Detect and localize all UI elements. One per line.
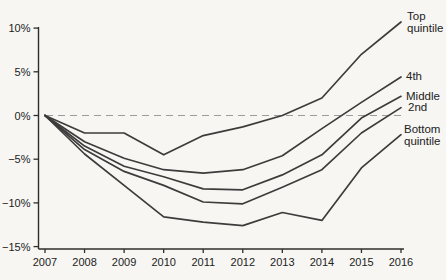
x-tick-label: 2008 — [72, 256, 96, 268]
series-label-2nd: 2nd — [408, 101, 427, 113]
series-label-text: 2nd — [408, 101, 427, 113]
quintile-income-change-chart: 10%5%0%−5%−10%−15%2007200820092010201120… — [0, 0, 446, 280]
x-tick-label: 2009 — [112, 256, 136, 268]
y-tick-label: −10% — [2, 197, 31, 209]
series-label-top-quintile: Topquintile — [407, 10, 443, 34]
y-tick-label: 5% — [15, 66, 31, 78]
series-label-4th: 4th — [406, 70, 422, 82]
y-tick-label: −5% — [8, 153, 31, 165]
x-tick-label: 2011 — [191, 256, 215, 268]
x-tick-label: 2016 — [389, 256, 413, 268]
y-tick-label: −15% — [2, 241, 31, 253]
series-line-4th — [45, 77, 401, 173]
x-tick-label: 2015 — [349, 256, 373, 268]
chart-canvas: 10%5%0%−5%−10%−15%2007200820092010201120… — [0, 0, 446, 280]
series-label-bottom-quintile: Bottomquintile — [404, 123, 440, 147]
y-tick-label: 10% — [8, 22, 30, 34]
y-axis-ticks: 10%5%0%−5%−10%−15% — [2, 22, 38, 253]
x-tick-label: 2010 — [151, 256, 175, 268]
y-tick-label: 0% — [15, 110, 31, 122]
series-label-text: 4th — [406, 70, 422, 82]
x-tick-label: 2012 — [231, 256, 255, 268]
x-axis-ticks: 2007200820092010201120122013201420152016 — [33, 249, 413, 268]
x-tick-label: 2007 — [33, 256, 57, 268]
x-tick-label: 2013 — [270, 256, 294, 268]
series-label-text: Top — [407, 10, 426, 22]
series-label-text: Bottom — [404, 123, 440, 135]
x-tick-label: 2014 — [310, 256, 334, 268]
series-line-top-quintile — [45, 22, 401, 155]
series-label-text: quintile — [407, 22, 443, 34]
series-label-text: quintile — [404, 135, 440, 147]
series-line-middle — [45, 96, 401, 190]
